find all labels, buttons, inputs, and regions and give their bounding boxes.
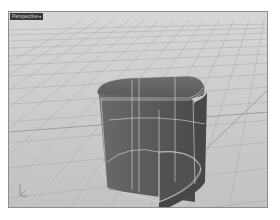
3d-model-object	[97, 76, 207, 208]
viewport-title-tab[interactable]: Perspective ▾	[10, 13, 43, 20]
viewport-title: Perspective	[12, 13, 38, 20]
scene-canvas	[9, 12, 268, 208]
perspective-viewport[interactable]: Perspective ▾	[8, 11, 268, 208]
dropdown-arrow-icon: ▾	[39, 13, 41, 20]
